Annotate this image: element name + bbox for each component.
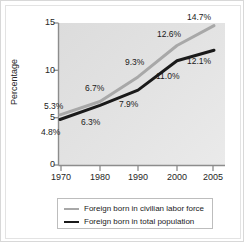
y-tick-label-10: 10 [35,66,55,75]
data-label-civilian-1990: 9.3% [125,58,144,67]
chart-figure: 15 10 5 0 Percentage 1970 1980 1990 2000… [0,0,244,242]
x-tick-label-1990: 1990 [121,173,155,182]
y-axis-title: Percentage [9,52,19,112]
data-label-civilian-1980: 6.7% [85,84,104,93]
legend-item-total-population: Foreign born in total population [64,216,212,227]
data-label-population-1990: 7.9% [119,100,138,109]
data-label-population-2000: 11.0% [156,72,179,81]
y-tick-labels: 15 10 5 0 [31,1,55,242]
legend-swatch-icon-population [64,221,79,223]
legend-swatch-icon-civilian [64,208,79,210]
legend-item-civilian-labor-force: Foreign born in civilian labor force [64,203,212,214]
data-label-civilian-2005: 14.7% [187,13,211,22]
x-tick-label-1970: 1970 [44,173,78,182]
data-label-civilian-1970: 5.3% [44,102,63,111]
legend-label-population: Foreign born in total population [84,218,194,226]
chart-legend: Foreign born in civilian labor force For… [57,198,213,229]
x-tick-marks [61,166,213,172]
data-label-population-2005: 12.1% [187,57,211,66]
x-tick-label-2000: 2000 [160,173,194,182]
y-tick-label-0: 0 [35,160,55,169]
x-tick-label-2005: 2005 [196,173,230,182]
y-tick-label-5: 5 [35,113,55,122]
legend-label-civilian: Foreign born in civilian labor force [84,205,204,213]
data-label-civilian-2000: 12.6% [157,30,181,39]
y-tick-label-15: 15 [35,18,55,27]
x-tick-label-1980: 1980 [83,173,117,182]
data-label-population-1970: 4.8% [41,128,60,137]
data-label-population-1980: 6.3% [81,118,100,127]
